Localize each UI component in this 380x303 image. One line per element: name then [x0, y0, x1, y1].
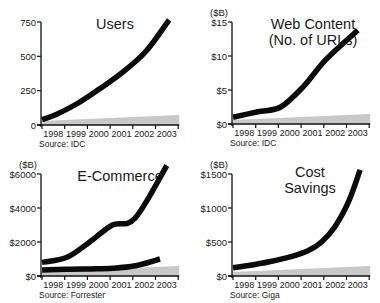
x-tick-label: 2000: [280, 128, 300, 138]
x-tick-label: 2000: [89, 280, 109, 290]
x-tick-label: 2003: [157, 280, 177, 290]
x-tick-label: 2002: [134, 280, 154, 290]
y-tick-label: $0: [25, 271, 36, 282]
series-line: [42, 20, 169, 120]
y-unit-label: ($B): [210, 159, 228, 170]
y-tick-label: $0: [216, 119, 227, 130]
y-tick-label: $1000: [201, 203, 227, 214]
x-tick-label: 2001: [111, 129, 131, 139]
chart-web-content: $0$5$10$15199819992000200120022003 Web C…: [190, 0, 380, 151]
x-tick-label: 1998: [234, 280, 254, 290]
x-tick-label: 2003: [157, 129, 177, 139]
x-tick-label: 2001: [302, 280, 322, 290]
y-tick-label: 750: [20, 17, 36, 28]
y-tick-label: $15: [211, 17, 227, 28]
y-tick-label: $4000: [10, 203, 36, 214]
x-tick-label: 2000: [280, 280, 300, 290]
y-unit-label: ($B): [210, 7, 228, 18]
source-note: Source: Giga: [230, 290, 280, 300]
y-tick-label: $10: [211, 51, 227, 62]
source-note: Source: IDC: [230, 138, 276, 148]
source-note: Source: Forrester: [39, 290, 105, 300]
x-tick-label: 2000: [89, 129, 109, 139]
floor-shading: [41, 115, 179, 125]
y-unit-label: ($B): [19, 159, 37, 170]
chart-e-commerce: $0$2000$4000$600019981999200020012002200…: [0, 151, 190, 302]
y-tick-label: 500: [20, 51, 36, 62]
x-tick-label: 2002: [325, 280, 345, 290]
y-tick-label: 250: [20, 85, 36, 96]
y-tick-label: $500: [206, 237, 227, 248]
chart-title: E-Commerce: [65, 168, 175, 184]
x-tick-label: 1998: [234, 128, 254, 138]
chart-title: Web Content (No. of URLs): [258, 16, 368, 48]
x-tick-label: 1999: [66, 280, 86, 290]
chart-title: Cost Savings: [270, 164, 350, 196]
chart-users: 0250500750199819992000200120022003 Users…: [0, 0, 190, 151]
y-tick-label: 0: [31, 120, 36, 131]
y-tick-label: $1500: [201, 169, 227, 180]
x-tick-label: 1999: [257, 280, 277, 290]
x-tick-label: 1999: [257, 128, 277, 138]
y-tick-label: $2000: [10, 237, 36, 248]
x-tick-label: 2002: [325, 128, 345, 138]
chart-title: Users: [70, 16, 160, 32]
source-note: Source: IDC: [39, 139, 85, 149]
x-tick-label: 1998: [43, 129, 63, 139]
chart-cost-savings: $0$500$1000$1500199819992000200120022003…: [190, 151, 380, 302]
x-tick-label: 1998: [43, 280, 63, 290]
x-tick-label: 2001: [302, 128, 322, 138]
x-tick-label: 2003: [348, 280, 368, 290]
x-tick-label: 2003: [348, 128, 368, 138]
x-tick-label: 2002: [134, 129, 154, 139]
y-tick-label: $5: [216, 85, 227, 96]
y-tick-label: $0: [216, 271, 227, 282]
x-tick-label: 2001: [111, 280, 131, 290]
x-tick-label: 1999: [66, 129, 86, 139]
y-tick-label: $6000: [10, 169, 36, 180]
